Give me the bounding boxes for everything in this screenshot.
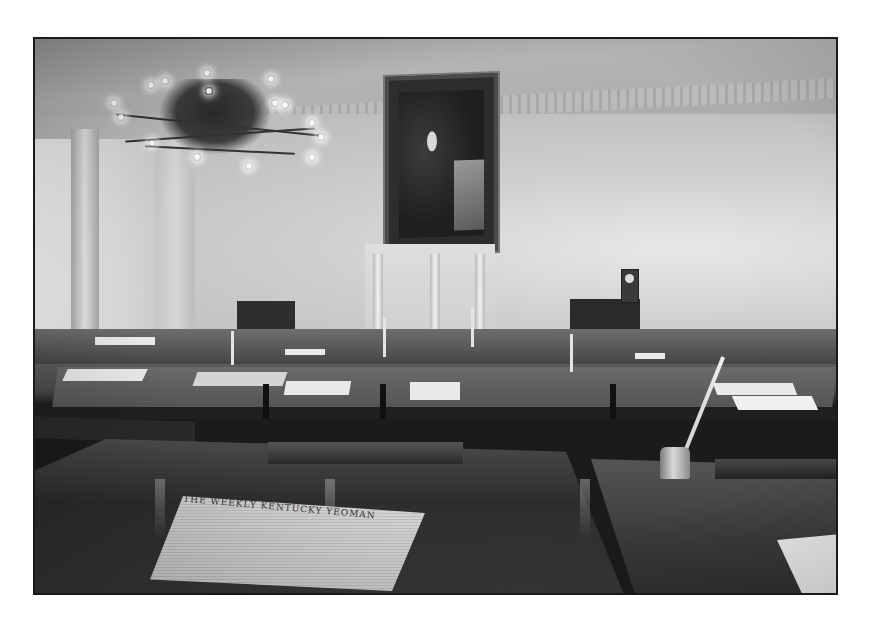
candle-bulb [281,101,289,109]
dais-column [430,254,440,334]
candle-bulb [148,139,156,147]
candle-bulb [193,153,201,161]
portrait-painting [385,73,498,255]
paper [192,372,287,386]
inkwell [660,447,690,479]
paper [62,369,148,381]
paper [95,337,155,345]
paper [732,396,819,410]
candle-bulb [317,133,325,141]
candlestick [383,317,386,357]
candle-bulb [203,69,211,77]
candle-bulb [308,153,316,161]
candle-bulb [147,81,155,89]
light-reflection [155,479,165,539]
paper [285,349,325,355]
candle-bulb [245,162,253,170]
candle-bulb [161,77,169,85]
paper [284,381,351,395]
portrait-canvas [399,90,484,239]
chandelier-body [160,79,270,154]
candle-bulb [205,87,213,95]
candle-bulb [271,99,279,107]
portrait-drapery [454,160,484,231]
pilaster-column [71,129,99,339]
candle-bulb [267,75,275,83]
desk-bookrest [268,442,463,464]
paper [635,353,665,359]
dais-column [475,254,485,334]
clock-face [625,274,634,283]
clock [621,269,639,303]
paper [713,383,797,395]
candle-bulb [110,99,118,107]
paper [410,382,460,400]
light-reflection [580,479,590,539]
desk-bookrest [715,459,838,479]
candle-bulb [308,119,316,127]
quill-inkwell [570,334,573,372]
candle-bulb [117,113,125,121]
candlestick [471,307,474,347]
candlestick [231,331,234,365]
chandelier [105,49,330,179]
portrait-face [427,131,437,151]
dais-column [373,254,383,334]
photograph: THE WEEKLY KENTUCKY YEOMAN [33,37,838,595]
